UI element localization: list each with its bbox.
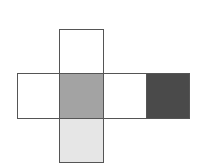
face-left — [17, 73, 60, 119]
face-center — [59, 73, 104, 119]
face-top — [59, 29, 104, 74]
face-bottom — [59, 118, 104, 163]
face-right — [103, 73, 147, 119]
face-far-right — [146, 73, 190, 119]
